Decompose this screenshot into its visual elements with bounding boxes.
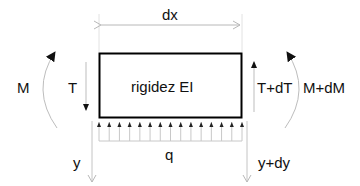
deflection-left-label: y xyxy=(73,155,81,170)
shear-left-label: T xyxy=(68,80,77,95)
load-q-label: q xyxy=(165,147,173,162)
distributed-load-arrows xyxy=(99,122,242,141)
moment-left-label: M xyxy=(17,80,30,95)
beam-element-diagram: dx rigidez EI M T T+dT M+dM q y y+dy xyxy=(0,0,360,186)
deflection-right-label: y+dy xyxy=(258,155,290,170)
shear-right-label: T+dT xyxy=(257,80,292,95)
moment-left-arc xyxy=(43,52,57,128)
moment-right-label: M+dM xyxy=(303,80,345,95)
dx-label: dx xyxy=(162,7,178,22)
stiffness-label: rigidez EI xyxy=(131,79,194,94)
